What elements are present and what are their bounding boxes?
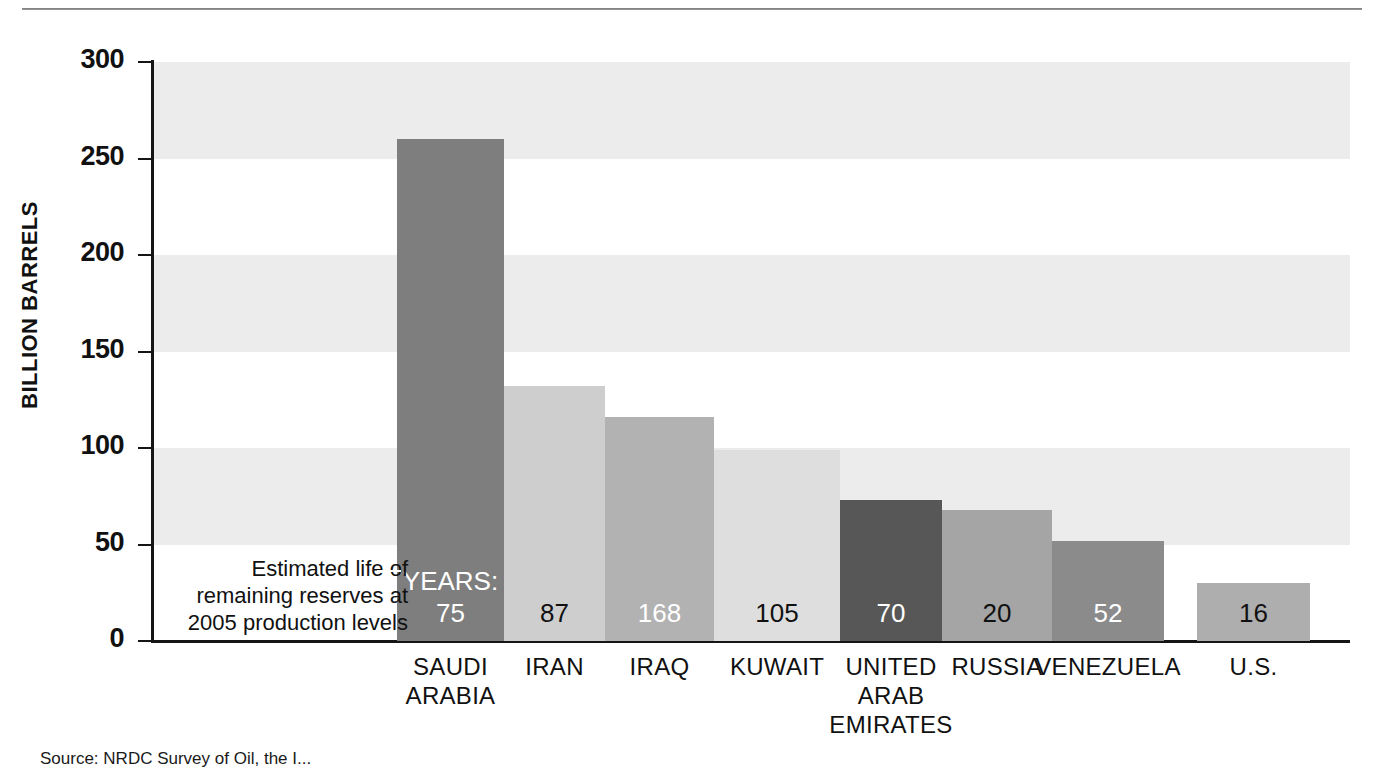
source-text: NRDC Survey of Oil, the I... <box>103 749 311 768</box>
background-band <box>152 62 1350 159</box>
y-axis-tick-label: 0 <box>44 623 124 654</box>
category-label-line: ARAB <box>800 681 982 710</box>
y-axis-tick-label: 300 <box>44 44 124 75</box>
y-axis-tick <box>138 158 151 160</box>
source-note: Source: NRDC Survey of Oil, the I... <box>40 749 311 769</box>
bar[interactable]: 168 <box>605 417 714 641</box>
y-axis-tick-label: 100 <box>44 430 124 461</box>
bar-years-value: 87 <box>504 598 605 629</box>
category-label-line: ARABIA <box>357 681 544 710</box>
bar[interactable]: 16 <box>1197 583 1310 641</box>
category-label-line: U.S. <box>1157 652 1350 681</box>
bar[interactable]: 52 <box>1052 541 1164 641</box>
bar[interactable]: 20 <box>942 510 1052 641</box>
bar-years-value: 20 <box>942 598 1052 629</box>
bar-years-value: 75 <box>397 598 504 629</box>
bar-years-value: 105 <box>714 598 840 629</box>
y-axis-tick <box>138 640 151 642</box>
bar-years-value: 16 <box>1197 598 1310 629</box>
top-divider-rule <box>22 8 1362 10</box>
y-axis-tick <box>138 254 151 256</box>
background-band <box>152 255 1350 352</box>
category-label-line: EMIRATES <box>800 710 982 739</box>
y-axis-tick <box>138 351 151 353</box>
y-axis-title: BILLION BARRELS <box>17 95 43 515</box>
annotation-line-3: 2005 production levels <box>168 609 408 636</box>
y-axis-tick <box>138 61 151 63</box>
bar-years-value: 168 <box>605 598 714 629</box>
y-axis-tick-label: 250 <box>44 141 124 172</box>
annotation-callout: Estimated life of remaining reserves at … <box>168 555 408 636</box>
source-label: Source: <box>40 749 99 768</box>
years-prefix-label: YEARS: <box>397 566 504 597</box>
bar[interactable]: 87 <box>504 386 605 641</box>
y-axis-line <box>151 60 154 643</box>
y-axis-tick-label: 50 <box>44 527 124 558</box>
bar-years-value: 52 <box>1052 598 1164 629</box>
annotation-line-1: Estimated life of <box>168 555 408 582</box>
y-axis-tick <box>138 447 151 449</box>
y-axis-tick <box>138 544 151 546</box>
bar-years-value: 70 <box>840 598 942 629</box>
y-axis-tick-label: 200 <box>44 237 124 268</box>
bar[interactable]: 105 <box>714 450 840 641</box>
y-axis-tick-label: 150 <box>44 334 124 365</box>
bar[interactable]: YEARS:75 <box>397 139 504 641</box>
x-axis-category-label: U.S. <box>1157 652 1350 681</box>
annotation-line-2: remaining reserves at <box>168 582 408 609</box>
bar[interactable]: 70 <box>840 500 942 641</box>
annotation-leader-line <box>377 570 401 572</box>
